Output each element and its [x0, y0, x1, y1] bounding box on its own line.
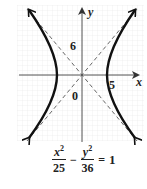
minus-operator: −	[70, 153, 77, 168]
rhs-value: 1	[109, 152, 116, 168]
exponent-y: 2	[88, 144, 92, 153]
exponent-x: 2	[60, 144, 64, 153]
origin-label: 0	[72, 89, 78, 103]
equals-sign: =	[98, 153, 105, 168]
hyperbola-graph: y x 6 5 0	[0, 0, 147, 145]
x-tick-label-5: 5	[109, 78, 115, 92]
fraction-x-denominator: 25	[53, 160, 65, 174]
fraction-x-term: x2 25	[52, 146, 66, 174]
fraction-y-numerator: y2	[81, 146, 94, 160]
fraction-y-denominator: 36	[82, 160, 94, 174]
x-axis-label: x	[135, 75, 142, 89]
y-tick-label-6: 6	[70, 39, 76, 53]
fraction-x-numerator: x2	[52, 146, 66, 160]
fraction-y-term: y2 36	[81, 146, 94, 174]
y-axis-label: y	[86, 5, 94, 19]
hyperbola-equation: x2 25 − y2 36 = 1	[52, 146, 116, 174]
